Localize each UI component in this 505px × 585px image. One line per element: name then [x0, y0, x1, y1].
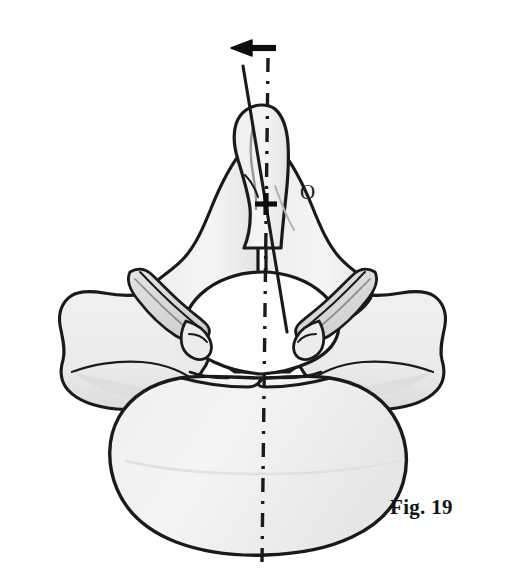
figure-container: O Fig. 19	[0, 0, 505, 585]
rotation-arrow	[231, 40, 276, 56]
point-o-label: O	[300, 180, 315, 205]
vertebral-body	[110, 376, 407, 555]
figure-caption: Fig. 19	[390, 495, 453, 520]
